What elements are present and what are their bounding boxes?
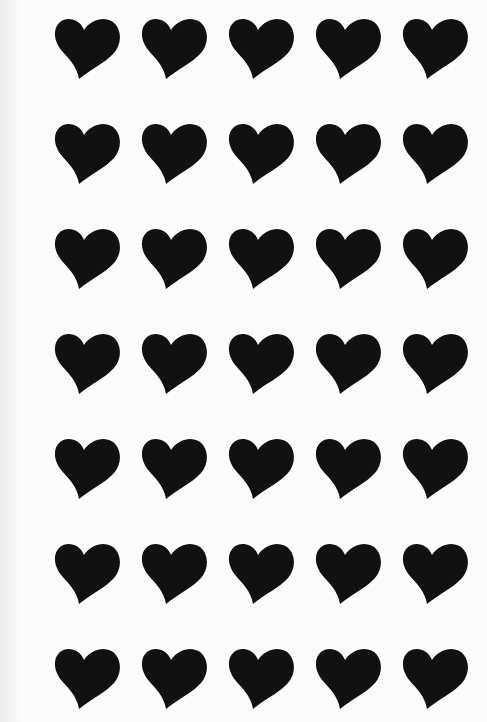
- heart-icon: [227, 541, 294, 605]
- heart-icon: [53, 646, 120, 710]
- heart-icon: [140, 16, 207, 80]
- heart-icon: [314, 331, 381, 395]
- heart-icon: [140, 436, 207, 500]
- heart-icon: [401, 226, 468, 290]
- heart-icon: [314, 226, 381, 290]
- heart-icon: [401, 646, 468, 710]
- heart-icon: [140, 646, 207, 710]
- heart-icon: [53, 121, 120, 185]
- heart-icon: [401, 436, 468, 500]
- heart-sticker-sheet: [0, 0, 487, 722]
- heart-icon: [314, 121, 381, 185]
- heart-icon: [401, 16, 468, 80]
- heart-icon: [227, 226, 294, 290]
- heart-icon: [227, 16, 294, 80]
- heart-icon: [314, 541, 381, 605]
- heart-icon: [53, 541, 120, 605]
- heart-icon: [140, 226, 207, 290]
- heart-icon: [140, 331, 207, 395]
- heart-icon: [314, 16, 381, 80]
- heart-icon: [227, 121, 294, 185]
- heart-icon: [401, 541, 468, 605]
- heart-icon: [314, 436, 381, 500]
- heart-icon: [401, 121, 468, 185]
- heart-icon: [401, 331, 468, 395]
- heart-icon: [140, 541, 207, 605]
- heart-icon: [53, 331, 120, 395]
- heart-icon: [227, 646, 294, 710]
- heart-icon: [53, 436, 120, 500]
- heart-icon: [227, 436, 294, 500]
- heart-icon: [314, 646, 381, 710]
- heart-icon: [227, 331, 294, 395]
- heart-icon: [53, 16, 120, 80]
- heart-icon: [140, 121, 207, 185]
- heart-grid: [53, 16, 468, 710]
- paper-edge-shadow: [0, 0, 22, 722]
- heart-icon: [53, 226, 120, 290]
